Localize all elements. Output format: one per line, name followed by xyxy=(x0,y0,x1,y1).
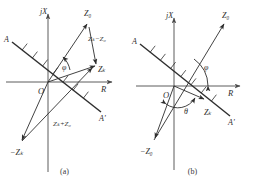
angle-label-phi-a: φ xyxy=(62,63,67,72)
boundary-end-label-a: A' xyxy=(98,114,106,123)
axis-label-real: R xyxy=(100,84,107,94)
boundary-start-label-b: A xyxy=(131,37,137,46)
boundary-line-a: A A' xyxy=(3,35,106,123)
vector-label-zk-a: Zₖ xyxy=(98,65,106,74)
diagram-a: R jX O A A' xyxy=(0,0,129,180)
annotation-zk-plus-z0: Zₖ+Z₀ xyxy=(53,120,72,128)
axis-label-imag-b: jX xyxy=(165,11,174,20)
boundary-start-label-a: A xyxy=(3,35,9,44)
boundary-line-b-stroke xyxy=(140,44,230,116)
vector-zk-a xyxy=(48,66,95,82)
annotation-zk-minus-z0: Zₖ−Z₀ xyxy=(88,35,107,43)
vector-label-z0-b: Z₀ xyxy=(222,11,229,20)
caption-a: (a) xyxy=(0,167,129,176)
boundary-hatching-b xyxy=(150,46,216,101)
boundary-line-a-stroke xyxy=(12,42,101,112)
origin-label-b: O xyxy=(163,90,169,100)
vector-label-minus-zk-a: −Zₖ xyxy=(10,148,24,157)
vector-group-b: Z₀ Zₖ −Z₀ xyxy=(140,11,229,156)
angle-arc-theta-b xyxy=(166,98,195,108)
subfigure-b: R jX O A A' xyxy=(128,0,257,180)
vector-label-z0-a: Z₀ xyxy=(84,9,91,18)
angle-phi-b: φ xyxy=(194,59,209,86)
subfigure-a: R jX O A A' xyxy=(0,0,129,180)
caption-b: (b) xyxy=(128,167,257,176)
angle-label-phi-b: φ xyxy=(204,63,209,72)
vector-group-a: Z₀ Zₖ −Zₖ Zₖ−Z₀ Zₖ+Z₀ xyxy=(10,9,107,157)
vector-label-zk-b: Zₖ xyxy=(204,108,212,117)
vector-z0-a xyxy=(48,24,87,82)
figure-canvas: R jX O A A' xyxy=(0,0,257,180)
boundary-line-b: A A' xyxy=(131,37,235,127)
vector-zk-minus-z0-a xyxy=(89,27,96,64)
boundary-end-label-b: A' xyxy=(227,118,235,127)
axis-label-real-b: R xyxy=(227,88,234,98)
angle-label-theta-b: θ xyxy=(184,107,188,116)
vector-minus-zk-a xyxy=(22,82,48,140)
diagram-b: R jX O A A' xyxy=(128,0,257,180)
axis-label-imag: jX xyxy=(39,7,48,16)
origin-label-a: O xyxy=(38,86,44,96)
vector-z0-b xyxy=(154,24,224,140)
vector-label-minus-z0-b: −Z₀ xyxy=(140,147,153,156)
